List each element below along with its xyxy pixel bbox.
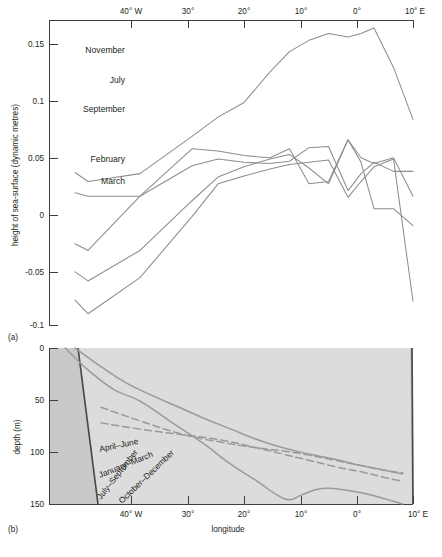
panel-b-x-tick-label: 10° [295, 510, 307, 519]
panel-a-y-axis-title: height of sea-surface (dynamic metres) [11, 104, 20, 246]
series-curve-september [75, 140, 413, 251]
panel-a-x-tick-label: 20° [238, 7, 250, 16]
series-curve-february [75, 147, 413, 197]
panel-b-x-tick-label: 0° [353, 510, 361, 519]
panel-b-y-tick-label: 100 [30, 448, 44, 457]
panel-a-x-tick-label: 30° [182, 7, 194, 16]
panel-a-series-labels: November July September February March [83, 45, 126, 186]
series-label-march: March [101, 176, 125, 186]
panel-b-x-tick-labels: 40° W 30° 20° 10° 0° 10° E [120, 510, 429, 519]
panel-b-background [49, 348, 413, 504]
panel-b-shelf-east [412, 348, 413, 504]
series-curve-july [75, 140, 413, 281]
panel-a-x-tick-label: 0° [353, 7, 361, 16]
panel-b-y-tick-label: 150 [30, 500, 44, 509]
panel-a-x-ticks [131, 20, 413, 28]
panel-a-y-tick-label: -0.1 [30, 321, 45, 330]
series-label-november: November [85, 45, 125, 55]
panel-b-x-axis-title: longitude [211, 525, 245, 534]
panel-a-x-tick-labels: 40° W 30° 20° 10° 0° 10° E [120, 7, 426, 16]
panel-b-y-axis-title: depth (m) [13, 419, 22, 454]
panel-a-y-tick-label: 0.15 [28, 40, 44, 49]
panel-a-x-tick-label: 40° W [120, 7, 143, 16]
panel-b-x-tick-label: 40° W [120, 510, 143, 519]
panel-a-y-tick-label: 0.05 [28, 154, 44, 163]
panel-b-y-tick-labels: 0 50 100 150 [30, 344, 44, 509]
panel-b-y-tick-label: 50 [35, 396, 45, 405]
series-label-july: July [110, 75, 126, 85]
panel-b-x-tick-label: 10° E [408, 510, 429, 519]
panel-a: 40° W 30° 20° 10° 0° 10° E 0.15 0.1 0.05… [8, 7, 426, 342]
panel-b-x-tick-label: 20° [238, 510, 250, 519]
panel-a-y-tick-label: 0 [39, 211, 44, 220]
panel-a-x-tick-label: 10° E [405, 7, 426, 16]
figure-container: 40° W 30° 20° 10° 0° 10° E 0.15 0.1 0.05… [0, 0, 442, 557]
panel-b-x-tick-label: 30° [182, 510, 194, 519]
panel-a-x-tick-label: 10° [295, 7, 307, 16]
series-label-february: February [91, 154, 126, 164]
panel-a-label: (a) [8, 333, 18, 342]
panel-a-y-tick-labels: 0.15 0.1 0.05 0 -0.05 -0.1 [25, 40, 44, 330]
series-label-september: September [83, 104, 125, 114]
panel-b-label: (b) [8, 525, 18, 534]
series-curve-november [75, 159, 413, 314]
panel-a-y-tick-label: -0.05 [25, 268, 44, 277]
panel-a-y-ticks [49, 44, 58, 325]
panel-b-y-tick-label: 0 [39, 344, 44, 353]
panel-a-y-tick-label: 0.1 [33, 97, 45, 106]
panel-a-curves [75, 28, 413, 314]
figure-svg: 40° W 30° 20° 10° 0° 10° E 0.15 0.1 0.05… [0, 0, 442, 557]
panel-b: 0 50 100 150 40° W 30° 20° 10° 0° 10° E [8, 344, 429, 534]
